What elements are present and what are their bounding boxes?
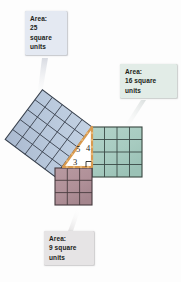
- horizontal-leg-square: [55, 168, 92, 205]
- hypotenuse-length-label: 5: [76, 144, 80, 154]
- callout-area-16: Area: 16 square units: [120, 64, 177, 98]
- vertical-leg-length-label: 4: [86, 143, 90, 153]
- horizontal-leg-square-outline: [55, 168, 92, 205]
- callout-9-line-3: units: [49, 253, 90, 262]
- callout-25-line-1: Area:: [30, 14, 63, 23]
- callout-25-line-3: square: [30, 33, 63, 42]
- vertical-leg-square: [92, 127, 142, 177]
- horizontal-leg-length-label: 3: [73, 157, 77, 167]
- callout-25-line-4: units: [30, 42, 63, 51]
- callout-9-line-2: 9 square: [49, 243, 90, 252]
- callout-area-9: Area: 9 square units: [44, 231, 94, 265]
- callout-tail-16: [123, 100, 146, 131]
- callout-9-line-1: Area:: [49, 234, 90, 243]
- callout-tail-9: [67, 204, 82, 234]
- callout-16-line-1: Area:: [125, 67, 173, 76]
- callout-area-25: Area: 25 square units: [25, 11, 67, 55]
- callout-16-line-3: units: [125, 86, 173, 95]
- callout-16-line-2: 16 square: [125, 76, 173, 85]
- callout-25-line-2: 25: [30, 23, 63, 32]
- diagram-canvas: Area: 25 square units Area: 16 square un…: [0, 0, 181, 282]
